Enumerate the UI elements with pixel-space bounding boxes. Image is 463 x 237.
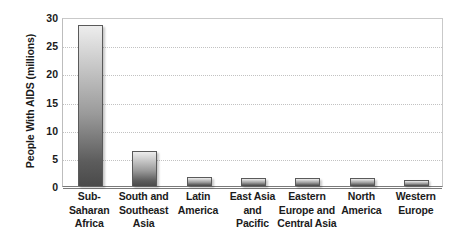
bar-3 bbox=[241, 178, 266, 186]
category-label-2: LatinAmerica bbox=[167, 190, 229, 217]
category-label-line: Sub-Saharan bbox=[58, 190, 120, 217]
category-label-line: Southeast bbox=[112, 204, 174, 218]
category-label-line: North bbox=[330, 190, 392, 204]
bar-0 bbox=[78, 25, 103, 186]
category-label-6: WesternEurope bbox=[385, 190, 447, 217]
bar-6 bbox=[404, 180, 429, 186]
category-label-3: East AsiaandPacific bbox=[221, 190, 283, 231]
y-axis-tick-labels: 051015202530 bbox=[30, 10, 58, 195]
bar-chart: People With AIDS (millions) 051015202530… bbox=[0, 0, 463, 237]
y-axis-tick-5: 5 bbox=[30, 153, 58, 164]
y-axis-tick-25: 25 bbox=[30, 41, 58, 52]
category-label-line: Europe and bbox=[276, 204, 338, 218]
category-label-line: South and bbox=[112, 190, 174, 204]
bar-5 bbox=[350, 178, 375, 186]
x-axis-category-labels: Sub-SaharanAfricaSouth andSoutheastAsiaL… bbox=[62, 190, 443, 237]
category-label-0: Sub-SaharanAfrica bbox=[58, 190, 120, 231]
category-label-line: East Asia bbox=[221, 190, 283, 204]
category-label-line: America bbox=[330, 204, 392, 218]
category-label-line: Central Asia bbox=[276, 217, 338, 231]
gridline-0 bbox=[63, 188, 442, 189]
bar-4 bbox=[295, 178, 320, 186]
plot-area bbox=[62, 18, 443, 187]
y-axis-tick-30: 30 bbox=[30, 13, 58, 24]
category-label-1: South andSoutheastAsia bbox=[112, 190, 174, 231]
category-label-4: EasternEurope andCentral Asia bbox=[276, 190, 338, 231]
category-label-line: America bbox=[167, 204, 229, 218]
bar-1 bbox=[132, 151, 157, 186]
y-axis-tick-0: 0 bbox=[30, 182, 58, 193]
category-label-line: Asia bbox=[112, 217, 174, 231]
category-label-line: Eastern bbox=[276, 190, 338, 204]
y-axis-tick-20: 20 bbox=[30, 69, 58, 80]
category-label-line: Latin bbox=[167, 190, 229, 204]
category-label-line: Africa bbox=[58, 217, 120, 231]
bars-layer bbox=[63, 19, 442, 186]
bar-2 bbox=[187, 177, 212, 186]
category-label-line: Western bbox=[385, 190, 447, 204]
category-label-5: NorthAmerica bbox=[330, 190, 392, 217]
category-label-line: Europe bbox=[385, 204, 447, 218]
y-axis-tick-10: 10 bbox=[30, 125, 58, 136]
category-label-line: and bbox=[221, 204, 283, 218]
y-axis-tick-15: 15 bbox=[30, 97, 58, 108]
category-label-line: Pacific bbox=[221, 217, 283, 231]
